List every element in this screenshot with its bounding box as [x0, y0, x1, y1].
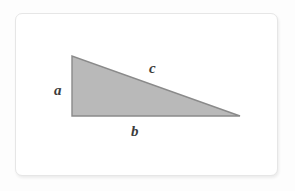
- label-side-c: c: [149, 61, 156, 76]
- triangle-diagram-canvas: [0, 0, 295, 191]
- figure-root: a c b: [0, 0, 295, 191]
- right-triangle-shape: [72, 56, 240, 116]
- label-side-b: b: [131, 124, 139, 139]
- label-side-a: a: [54, 83, 62, 98]
